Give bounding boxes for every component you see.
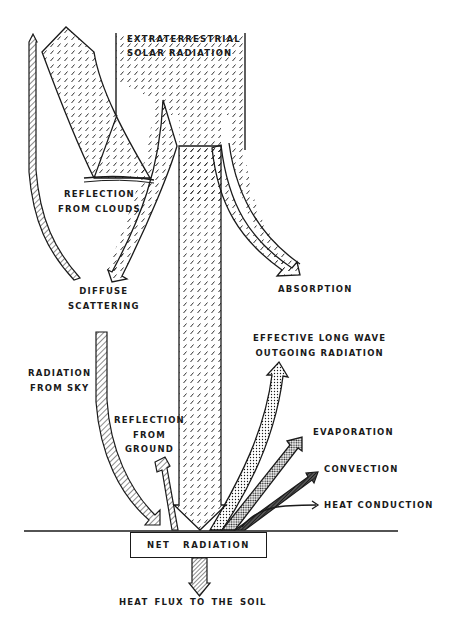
label-heat-flux-to-soil: HEAT FLUX TO THE SOIL [119,598,267,607]
label-line: FROM CLOUDS [58,205,141,214]
label-line: REFLECTION [58,190,141,199]
label-line: FROM [114,431,185,440]
label-reflection-from-clouds: REFLECTION FROM CLOUDS [58,190,141,213]
label-line: REFLECTION [114,416,185,425]
label-absorption: ABSORPTION [278,285,352,294]
label-line: FROM SKY [28,384,91,393]
label-line: SOLAR RADIATION [127,49,241,58]
label-line: EFFECTIVE LONG WAVE [253,334,386,343]
label-reflection-from-ground: REFLECTION FROM GROUND [114,416,185,454]
direct-solar-arrow [174,146,226,530]
label-line: GROUND [114,445,185,454]
label-line: HEAT FLUX TO THE SOIL [119,597,267,607]
label-heat-conduction: HEAT CONDUCTION [324,501,434,510]
label-line: EVAPORATION [313,428,394,437]
label-line: RADIATION [28,369,91,378]
label-line: HEAT CONDUCTION [324,501,434,510]
label-effective-long-wave: EFFECTIVE LONG WAVE OUTGOING RADIATION [253,334,386,357]
label-line: ABSORPTION [278,285,352,294]
net-radiation-box: NET RADIATION [130,532,267,558]
label-diffuse-scattering: DIFFUSE SCATTERING [68,287,140,310]
label-convection: CONVECTION [324,465,399,474]
label-radiation-from-sky: RADIATION FROM SKY [28,369,91,392]
label-line: EXTRATERRESTRIAL [127,35,241,44]
label-extraterrestrial-solar-radiation: EXTRATERRESTRIAL SOLAR RADIATION [127,35,241,57]
label-line: OUTGOING RADIATION [253,349,386,358]
label-line: SCATTERING [68,302,140,311]
label-line: DIFFUSE [68,287,140,296]
label-evaporation: EVAPORATION [313,428,394,437]
label-line: CONVECTION [324,465,399,474]
label-net-radiation: NET RADIATION [147,540,250,550]
soil-heat-flux-arrow [189,558,210,596]
